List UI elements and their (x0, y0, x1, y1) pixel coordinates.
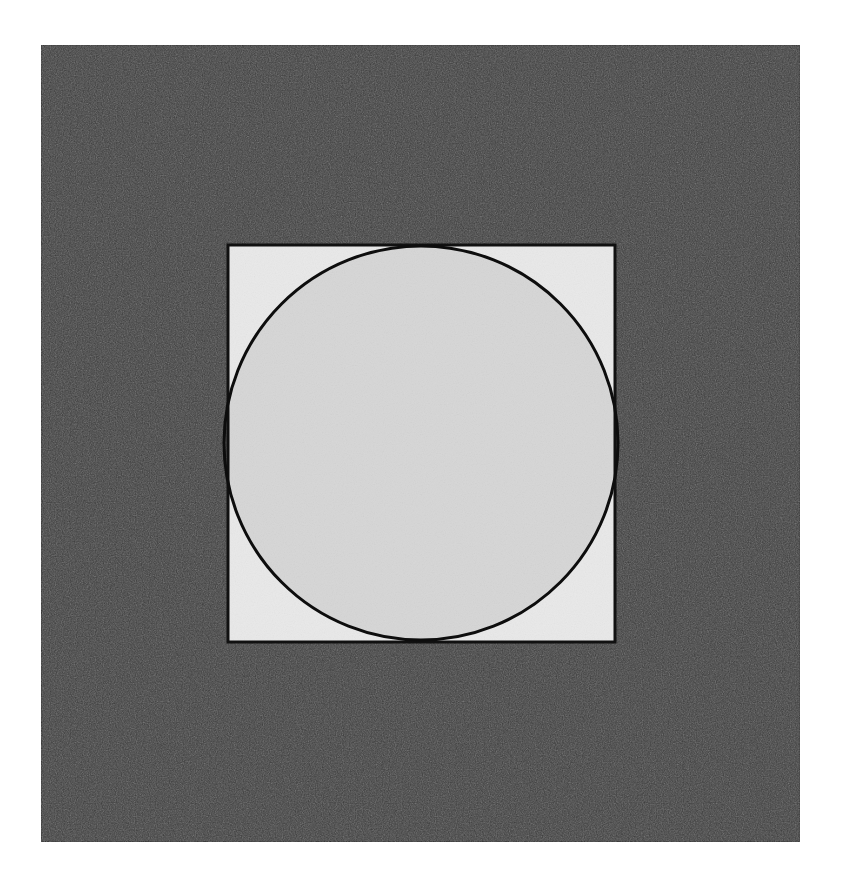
geometric-figure (0, 0, 841, 884)
inscribed-circle-fill (224, 246, 618, 640)
figure-canvas (0, 0, 841, 884)
